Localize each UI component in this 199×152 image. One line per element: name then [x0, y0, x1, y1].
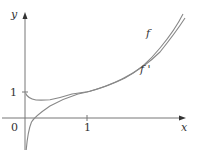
x-tick-label-1: 1 [84, 121, 91, 134]
curve-fprime-label: f ' [139, 63, 151, 76]
y-axis-label: y [10, 8, 18, 21]
curve-fprime [26, 18, 185, 150]
origin-label: 0 [11, 121, 18, 134]
x-axis-arrow-icon [179, 116, 186, 121]
curve-f-label: f [145, 27, 152, 40]
y-axis-arrow-icon [23, 12, 28, 19]
y-tick-label-1: 1 [10, 86, 17, 99]
x-axis-label: x [181, 121, 188, 134]
curve-f [26, 14, 183, 100]
chart: y x 0 1 1 f f ' [0, 0, 199, 152]
